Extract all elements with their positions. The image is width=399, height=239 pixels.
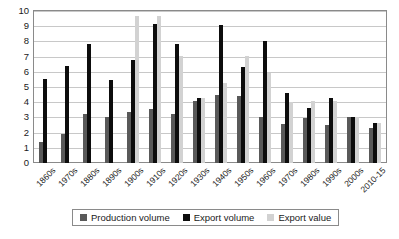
y-axis-tick-label: 9 (24, 21, 29, 31)
legend-swatch-icon (267, 214, 274, 221)
x-axis-tick-label: 1920s (167, 166, 190, 189)
legend-item-production: Production volume (80, 213, 170, 223)
bar-group (166, 11, 188, 163)
bar-group (364, 11, 386, 163)
legend-item-exportvol: Export volume (183, 213, 255, 223)
bar-exportvol (87, 44, 91, 163)
x-axis-tick-label: 1880s (79, 166, 102, 189)
bar-exportvol (65, 66, 69, 163)
x-axis-tick-label: 1940s (211, 166, 234, 189)
y-axis-tick-label: 5 (24, 82, 29, 92)
bar-exportval (289, 102, 293, 163)
legend-item-exportval: Export value (267, 213, 331, 223)
bar-exportval (135, 16, 139, 163)
bar-exportval (377, 123, 381, 163)
chart-legend: Production volumeExport volumeExport val… (72, 209, 339, 226)
y-axis-tick-label: 8 (24, 37, 29, 47)
bar-group (210, 11, 232, 163)
bar-group (254, 11, 276, 163)
legend-label: Export value (278, 213, 331, 223)
x-axis-tick-label: 1990s (321, 166, 344, 189)
bar-group (78, 11, 100, 163)
x-axis-tick-label: 1910s (145, 166, 168, 189)
x-axis-tick-label: 1930s (189, 166, 212, 189)
bar-exportval (311, 101, 315, 163)
legend-label: Production volume (91, 213, 170, 223)
x-axis-tick-label: 1950s (233, 166, 256, 189)
bar-group (342, 11, 364, 163)
bar-group (56, 11, 78, 163)
bar-exportval (355, 117, 359, 163)
x-axis-tick-label: 1970s (57, 166, 80, 189)
bar-exportvol (43, 79, 47, 163)
bar-group (320, 11, 342, 163)
x-axis-tick-label: 1860s (35, 166, 58, 189)
legend-swatch-icon (183, 214, 190, 221)
x-axis-tick-label: 1900s (123, 166, 146, 189)
bar-exportval (333, 101, 337, 163)
bar-group (298, 11, 320, 163)
bar-chart: 012345678910 1860s1970s1880s1890s1900s19… (0, 0, 399, 239)
bar-group (276, 11, 298, 163)
y-axis-tick-label: 3 (24, 113, 29, 123)
y-axis-tick-label: 7 (24, 52, 29, 62)
bar-exportval (245, 56, 249, 163)
y-axis-tick-label: 1 (24, 143, 29, 153)
bar-group (122, 11, 144, 163)
bar-group (232, 11, 254, 163)
bar-exportval (179, 56, 183, 163)
x-axis-tick-label: 1890s (101, 166, 124, 189)
y-axis-tick-label: 10 (18, 6, 29, 16)
bar-exportvol (109, 80, 113, 163)
x-axis: 1860s1970s1880s1890s1900s1910s1920s1930s… (34, 164, 386, 206)
bar-group (188, 11, 210, 163)
bar-exportval (223, 83, 227, 163)
x-axis-tick-label: 1960s (255, 166, 278, 189)
y-axis-tick-label: 4 (24, 97, 29, 107)
bar-exportval (157, 16, 161, 163)
legend-swatch-icon (80, 214, 87, 221)
y-axis-tick-label: 0 (24, 158, 29, 168)
y-axis-tick-label: 6 (24, 67, 29, 77)
bar-group (144, 11, 166, 163)
x-axis-tick-label: 1970s (277, 166, 300, 189)
bar-group (100, 11, 122, 163)
bar-group (34, 11, 56, 163)
bar-exportval (267, 73, 271, 163)
bar-groups (34, 11, 386, 163)
y-axis-tick-label: 2 (24, 128, 29, 138)
legend-label: Export volume (194, 213, 255, 223)
bar-exportval (201, 98, 205, 163)
x-axis-tick-label: 1980s (299, 166, 322, 189)
y-axis: 012345678910 (0, 0, 33, 165)
